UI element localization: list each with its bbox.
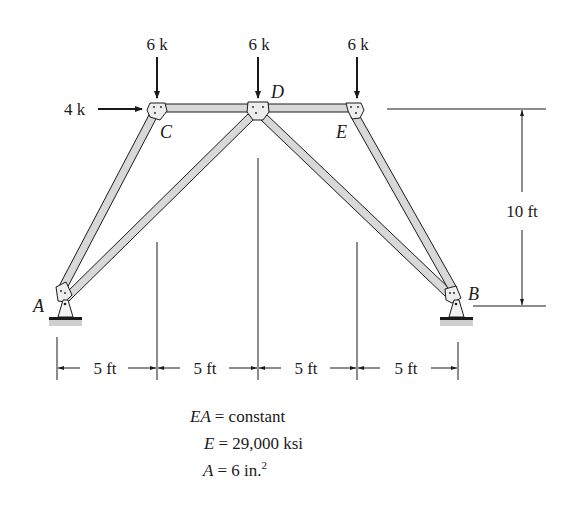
property-a: A= 6 in.2 [202, 459, 267, 480]
support-a [49, 300, 82, 326]
truss-members [57, 104, 457, 302]
property-ea: EA= constant [189, 407, 286, 426]
member-de [268, 104, 350, 112]
load-label-d: 6 k [248, 35, 270, 54]
joint-label-d: D [270, 82, 284, 102]
member-eb [351, 113, 457, 292]
span-label-3: 5 ft [294, 359, 317, 378]
joint-label-a: A [32, 296, 45, 316]
joint-label-c: C [160, 122, 173, 142]
material-properties: EA= constant E= 29,000 ksi A= 6 in.2 [189, 407, 303, 480]
joint-label-e: E [335, 122, 347, 142]
joint-label-b: B [468, 284, 479, 304]
truss-diagram: 6 k 6 k 6 k 4 k C D E A B 10 ft 5 ft 5 f… [0, 0, 577, 506]
span-label-2: 5 ft [193, 359, 216, 378]
span-label-1: 5 ft [93, 359, 116, 378]
load-label-e: 6 k [347, 35, 369, 54]
member-ad [63, 114, 254, 302]
load-label-horizontal: 4 k [64, 100, 86, 119]
member-db [260, 114, 452, 297]
member-ac [57, 113, 157, 294]
property-e: E= 29,000 ksi [203, 434, 303, 453]
load-label-c: 6 k [146, 35, 168, 54]
member-cd [165, 104, 250, 112]
gusset-e [346, 103, 364, 119]
span-label-4: 5 ft [394, 359, 417, 378]
height-label: 10 ft [506, 202, 538, 221]
gusset-c [147, 103, 167, 120]
load-arrows [98, 57, 357, 109]
